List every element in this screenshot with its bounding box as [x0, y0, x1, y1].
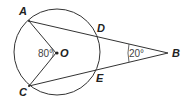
center-point — [55, 51, 58, 54]
angle-label-aoc: 80° — [38, 48, 53, 59]
point-c — [28, 85, 30, 87]
angle-label-b: 20° — [129, 48, 144, 59]
label-e: E — [96, 72, 104, 84]
geometry-diagram: A B C D E O 80° 20° — [0, 0, 185, 107]
label-o: O — [60, 47, 69, 59]
label-b: B — [172, 47, 180, 59]
label-c: C — [19, 86, 28, 98]
point-a — [28, 20, 30, 22]
label-a: A — [18, 5, 27, 17]
label-d: D — [97, 22, 105, 34]
